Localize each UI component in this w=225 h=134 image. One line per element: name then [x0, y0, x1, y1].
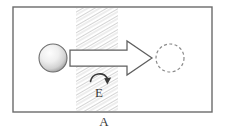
rotation-label: E	[95, 85, 103, 100]
solid-sphere	[39, 44, 67, 72]
figure-container: E A	[0, 0, 225, 134]
diagram-canvas: E A	[0, 0, 225, 134]
band-label: A	[99, 114, 109, 129]
